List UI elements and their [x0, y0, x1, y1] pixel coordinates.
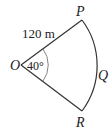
- label-q: Q: [98, 68, 108, 83]
- label-r: R: [75, 115, 85, 130]
- label-p: P: [75, 4, 85, 19]
- arc-pqr: [82, 20, 97, 111]
- label-o: O: [10, 58, 20, 73]
- sector-diagram: O P Q R 120 m 40°: [0, 0, 112, 131]
- angle-label: 40°: [27, 59, 44, 73]
- radius-label: 120 m: [22, 26, 55, 41]
